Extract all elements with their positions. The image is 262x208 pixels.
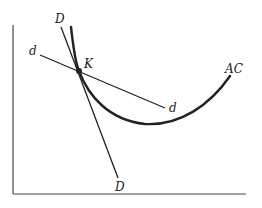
- dd-line: [40, 55, 165, 108]
- label-d-left: d: [29, 45, 37, 57]
- AC-curve: [71, 27, 230, 124]
- label-AC: AC: [225, 63, 243, 75]
- diagram-canvas: [0, 0, 262, 208]
- label-d-right: d: [169, 102, 177, 114]
- DD-line: [61, 27, 118, 178]
- label-D-bottom: D: [115, 181, 125, 193]
- label-K: K: [84, 58, 93, 70]
- label-D-top: D: [55, 13, 65, 25]
- point-K: [76, 68, 82, 74]
